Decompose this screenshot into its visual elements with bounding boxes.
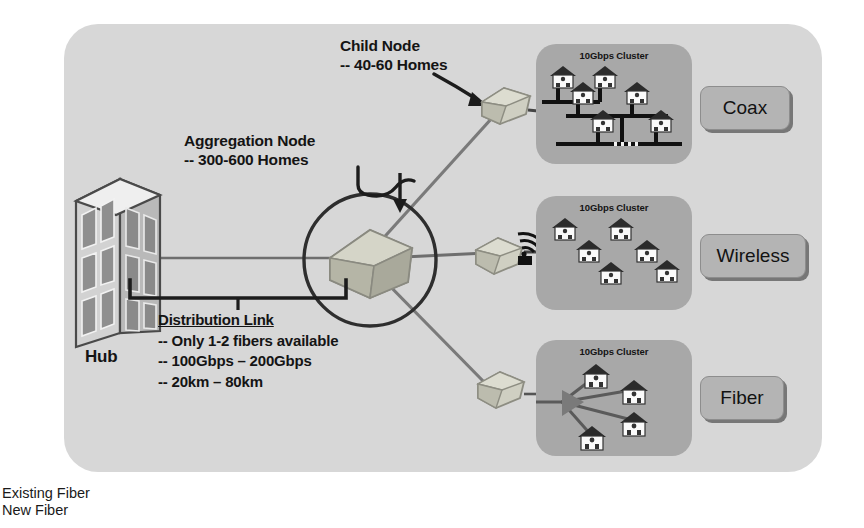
cluster-fiber-topology [536,340,692,456]
cluster-fiber[interactable]: 10Gbps Cluster [536,340,692,456]
aggregation-node-label-line1: Aggregation Node [184,131,315,150]
house-icon [618,378,650,406]
distribution-link-line2: -- 100Gbps – 200Gbps [158,351,338,372]
aggregation-node-label: Aggregation Node -- 300-600 Homes [184,131,315,169]
house-icon [580,362,612,390]
tech-button-wireless[interactable]: Wireless [700,234,806,278]
aggregation-node-label-line2: -- 300-600 Homes [184,150,315,169]
house-icon [576,424,608,452]
child-node-coax[interactable] [476,80,536,132]
child-node-label: Child Node -- 40-60 Homes [340,36,447,74]
distribution-link-line3: -- 20km – 80km [158,372,338,393]
house-icon [652,258,682,284]
aggregation-node-arrow [352,165,442,235]
cluster-wireless-title: 10Gbps Cluster [536,202,692,213]
distribution-link-bracket [126,276,356,312]
legend: Existing Fiber New Fiber [2,485,90,518]
child-node-fiber[interactable] [472,362,532,416]
cluster-coax-topology [536,44,692,164]
child-node-label-line1: Child Node [340,36,447,55]
legend-existing-fiber: Existing Fiber [2,485,90,502]
house-icon [646,108,676,134]
house-icon [622,80,652,106]
hub-label: Hub [85,347,117,366]
cluster-wireless[interactable]: 10Gbps Cluster [536,196,692,310]
house-icon [568,80,598,106]
distribution-link-label: Distribution Link -- Only 1-2 fibers ava… [158,310,338,392]
tech-button-coax[interactable]: Coax [700,86,790,130]
tech-button-fiber[interactable]: Fiber [700,376,784,420]
house-icon [588,108,618,134]
house-icon [618,410,650,438]
house-icon [596,260,626,286]
legend-new-fiber: New Fiber [2,502,90,519]
distribution-link-heading: Distribution Link [158,310,338,331]
cluster-coax[interactable]: 10Gbps Cluster [536,44,692,164]
distribution-link-line1: -- Only 1-2 fibers available [158,331,338,352]
